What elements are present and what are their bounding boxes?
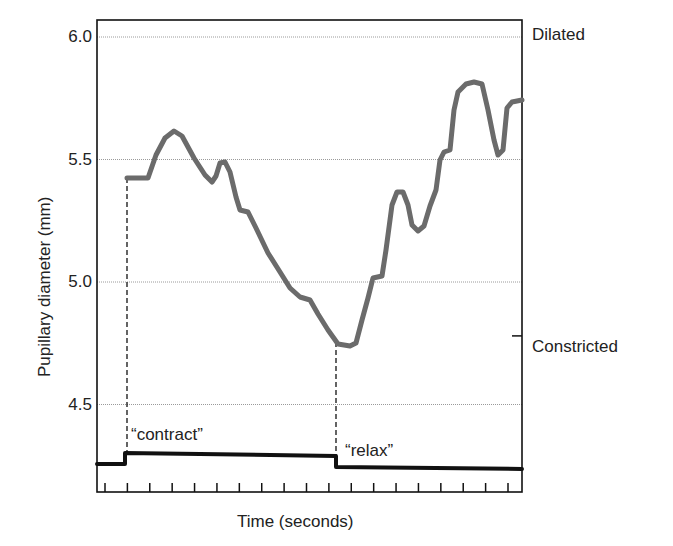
x-axis-ticks xyxy=(105,483,508,492)
ytick-label-6-0: 6.0 xyxy=(42,27,92,47)
x-axis-label: Time (seconds) xyxy=(237,512,354,532)
dilated-label: Dilated xyxy=(532,25,585,45)
y-axis-label: Pupillary diameter (mm) xyxy=(35,197,55,377)
ytick-label-4-5: 4.5 xyxy=(42,395,92,415)
data-series xyxy=(97,82,522,469)
constricted-label: Constricted xyxy=(532,337,618,357)
relax-label: “relax” xyxy=(345,441,393,461)
pupil-diameter-line xyxy=(127,82,522,346)
pupil-diameter-chart xyxy=(0,0,673,546)
contract-label: “contract” xyxy=(131,425,203,445)
ytick-label-5-5: 5.5 xyxy=(42,150,92,170)
event-markers xyxy=(127,178,336,456)
command-signal-line xyxy=(97,453,522,469)
